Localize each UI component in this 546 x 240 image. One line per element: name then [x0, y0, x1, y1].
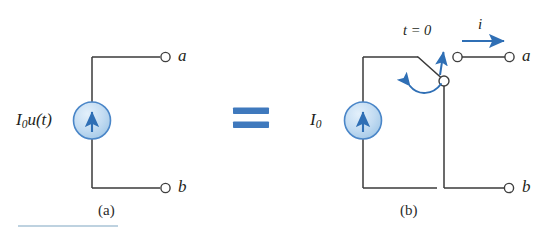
terminal-b-bottom-node	[504, 183, 513, 192]
terminal-b-top-node	[505, 52, 514, 61]
circuit-canvas	[0, 0, 546, 240]
terminal-label-a-top: a	[178, 47, 187, 64]
source-label-b: I0	[310, 111, 321, 131]
terminal-label-a-bottom: b	[178, 178, 187, 195]
panel-a-circuit	[74, 52, 171, 192]
terminal-a-bottom-node	[161, 183, 170, 192]
switch-time-label: t = 0	[403, 23, 431, 38]
terminal-label-b-top: a	[522, 47, 531, 64]
terminal-a-top-node	[161, 52, 170, 61]
caption-panel-a: (a)	[98, 203, 115, 218]
caption-panel-b: (b)	[400, 203, 418, 218]
source-label-b-subscript: 0	[316, 118, 322, 130]
equals-sign	[233, 108, 269, 129]
current-label-b: i	[478, 17, 482, 32]
switch-blade-b	[418, 57, 442, 78]
source-label-a: I0u(t)	[16, 111, 52, 131]
source-label-a-function: u(t)	[27, 110, 52, 129]
panel-b-circuit	[345, 41, 515, 193]
circuit-figure: I0u(t) a b (a) I0 t = 0 i a b (b)	[0, 0, 546, 240]
switch-sweep-arrow-icon	[410, 84, 441, 93]
switch-contact-node-b	[453, 52, 462, 61]
terminal-label-b-bottom: b	[522, 178, 531, 195]
switch-up-arrow-icon	[440, 52, 444, 75]
